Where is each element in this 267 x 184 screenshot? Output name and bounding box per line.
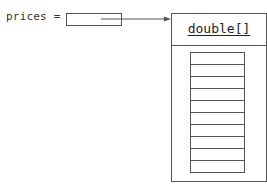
arrowhead-icon [164,17,171,22]
array-cell [191,137,244,149]
array-cell [191,65,244,77]
array-cell [191,53,244,65]
array-cell [191,89,244,101]
array-cell [191,101,244,113]
array-object: double[] [171,13,267,182]
array-header: double[] [172,14,266,46]
array-cell [191,113,244,125]
array-cell [191,161,244,173]
array-type-label: double[] [188,21,251,36]
array-cell [191,149,244,161]
array-cell [191,77,244,89]
array-cell [191,125,244,137]
array-cells [190,52,245,173]
